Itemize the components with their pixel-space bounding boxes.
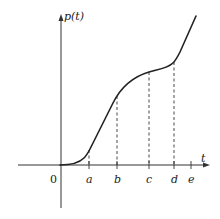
y-axis-label: p(t) <box>64 10 84 23</box>
diagram-canvas: p(t) t 0 a b c d e <box>0 0 220 219</box>
p-of-t-diagram: p(t) t 0 a b c d e <box>0 0 220 219</box>
tick-label-d: d <box>171 173 178 186</box>
tick-label-a: a <box>86 173 93 186</box>
tick-label-c: c <box>146 173 152 186</box>
p-of-t-curve <box>60 16 196 165</box>
origin-label: 0 <box>50 173 57 186</box>
x-axis-label: t <box>201 152 206 165</box>
y-axis-arrow-icon <box>59 14 64 21</box>
tick-label-b: b <box>114 173 121 186</box>
tick-label-e: e <box>188 173 195 186</box>
